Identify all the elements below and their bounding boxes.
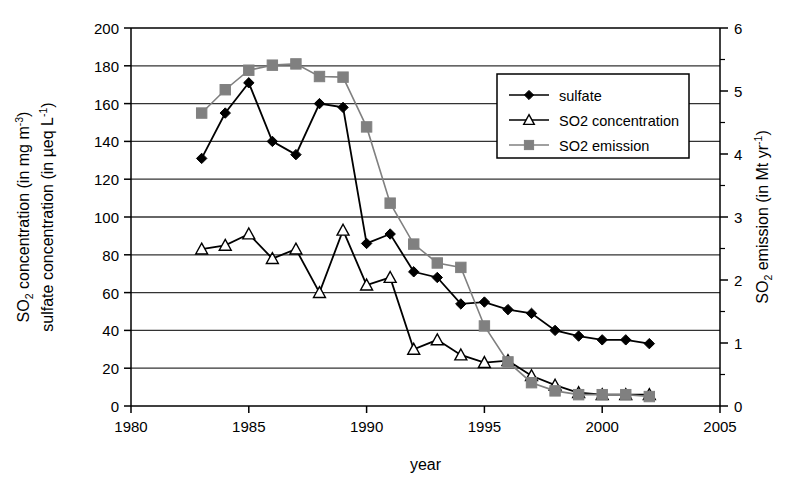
chart-legend: sulfateSO2 concentrationSO2 emission (497, 74, 689, 158)
y-tick-label-right: 1 (734, 335, 742, 352)
marker-filled-square (409, 239, 419, 249)
marker-filled-square (267, 60, 277, 70)
x-tick-label: 2000 (586, 418, 619, 435)
marker-filled-square (314, 71, 324, 81)
x-tick-label: 1985 (232, 418, 265, 435)
x-tick-label: 2005 (703, 418, 736, 435)
marker-filled-square (621, 389, 631, 399)
y-tick-label-left: 160 (94, 96, 119, 113)
y-tick-label-left: 200 (94, 20, 119, 37)
x-tick-label: 1980 (114, 418, 147, 435)
y-tick-label-right: 2 (734, 272, 742, 289)
marker-filled-square (456, 262, 466, 272)
marker-filled-square (524, 140, 533, 149)
marker-filled-square (644, 391, 654, 401)
legend-label: SO2 concentration (559, 113, 679, 129)
marker-filled-square (432, 258, 442, 268)
marker-filled-square (220, 85, 230, 95)
y-tick-label-right: 5 (734, 83, 742, 100)
y-tick-label-left: 120 (94, 171, 119, 188)
legend-label: SO2 emission (559, 138, 649, 154)
marker-filled-square (573, 389, 583, 399)
y-tick-label-left: 100 (94, 209, 119, 226)
marker-filled-square (503, 357, 513, 367)
so2-sulfate-timeseries-chart: 198019851990199520002005 020406080100120… (0, 0, 788, 493)
x-tick-label: 1995 (468, 418, 501, 435)
y-tick-label-right: 4 (734, 146, 742, 163)
y-axis-left-title-sulfate: sulfate concentration (in µeq L-1) (37, 102, 56, 331)
x-tick-label: 1990 (350, 418, 383, 435)
y-tick-label-left: 180 (94, 58, 119, 75)
marker-filled-square (361, 122, 371, 132)
y-tick-label-left: 140 (94, 133, 119, 150)
marker-filled-square (526, 377, 536, 387)
y-tick-label-right: 0 (734, 398, 742, 415)
y-tick-label-left: 20 (102, 360, 119, 377)
marker-filled-square (550, 386, 560, 396)
y-tick-label-left: 80 (102, 247, 119, 264)
marker-filled-square (291, 59, 301, 69)
chart-figure: 198019851990199520002005 020406080100120… (0, 0, 788, 493)
marker-filled-square (597, 389, 607, 399)
marker-filled-square (479, 321, 489, 331)
y-axis-left-title-so2: SO2 concentration (in mg m-3) (13, 112, 35, 323)
legend-label: sulfate (559, 88, 602, 104)
y-tick-label-right: 3 (734, 209, 742, 226)
marker-filled-square (338, 72, 348, 82)
y-tick-label-left: 40 (102, 322, 119, 339)
x-axis-title: year (410, 456, 442, 473)
marker-filled-square (196, 108, 206, 118)
y-tick-label-right: 6 (734, 20, 742, 37)
marker-filled-square (244, 65, 254, 75)
y-tick-label-left: 0 (111, 398, 119, 415)
marker-filled-square (385, 198, 395, 208)
y-tick-label-left: 60 (102, 285, 119, 302)
